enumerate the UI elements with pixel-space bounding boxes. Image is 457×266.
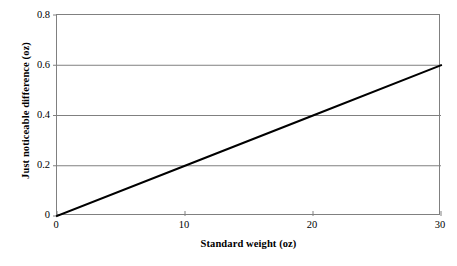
chart-figure: Just noticeable difference (oz) 0.8 0.6 …: [0, 0, 457, 266]
x-tick-label-0: 0: [36, 219, 76, 230]
y-tick-label-0.8: 0.8: [4, 9, 50, 20]
x-tick-label-10: 10: [164, 219, 204, 230]
y-tick-label-0.6: 0.6: [4, 59, 50, 70]
x-tick-label-30: 30: [420, 219, 457, 230]
plot-svg: [56, 14, 442, 217]
y-tick-marks: [53, 15, 57, 216]
gridlines: [57, 65, 441, 166]
y-tick-label-0.2: 0.2: [4, 159, 50, 170]
x-axis-label: Standard weight (oz): [56, 238, 441, 249]
series-line-webers-law: [57, 65, 441, 216]
x-tick-marks: [57, 211, 441, 216]
y-tick-label-0.4: 0.4: [4, 109, 50, 120]
x-tick-label-20: 20: [292, 219, 332, 230]
plot-area: [56, 14, 440, 215]
